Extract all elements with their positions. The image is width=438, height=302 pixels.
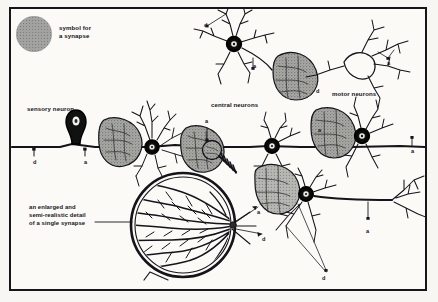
diagram-artwork <box>0 0 438 302</box>
label-motor-neurons: motor neurons <box>332 90 376 97</box>
label-central-neurons: central neurons <box>211 101 258 108</box>
caption-line2: semi-realistic detail <box>29 212 86 219</box>
legend-label-line1: symbol for <box>59 24 91 31</box>
neuron-synapse-diagram: symbol for a synapse sensory neuron cent… <box>0 0 438 302</box>
letter-marker-a-8: a <box>411 148 414 154</box>
letter-marker-d-6: d <box>316 88 319 94</box>
letter-marker-a-2: a <box>84 159 87 165</box>
caption-line3: of a single synapse <box>29 220 85 227</box>
letter-marker-a-9: a <box>366 228 369 234</box>
letter-marker-a-13: a <box>387 60 390 66</box>
legend-label-line2: a synapse <box>59 32 89 39</box>
letter-marker-d-1: d <box>33 159 36 165</box>
synapse-symbol-dot <box>16 16 52 52</box>
letter-marker-d-4: d <box>204 22 207 28</box>
letter-marker-a-11: a <box>257 209 260 215</box>
letter-marker-a-7: a <box>318 127 321 133</box>
letter-marker-a-3: a <box>205 118 208 124</box>
letter-marker-d-10: d <box>322 275 325 281</box>
letter-marker-a-5: a <box>253 63 256 69</box>
label-sensory-neuron: sensory neuron <box>27 105 74 112</box>
letter-marker-d-12: d <box>262 236 265 242</box>
caption-line1: an enlarged and <box>29 204 76 211</box>
